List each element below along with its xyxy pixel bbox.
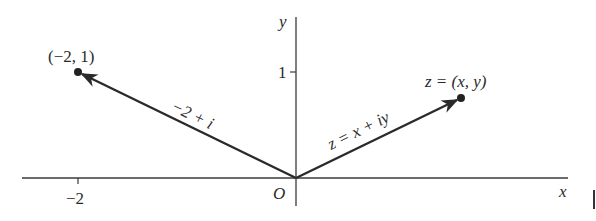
y-axis-label: y <box>277 12 287 31</box>
origin-label: O <box>273 184 285 203</box>
point-minus-2-1 <box>74 68 82 76</box>
complex-plane-diagram: y x O −2 1 (−2, 1) z = (x, y) −2 + i z =… <box>0 0 596 221</box>
point-label-z: z = (x, y) <box>424 72 487 91</box>
y-tick-label-1: 1 <box>278 63 287 82</box>
x-tick-label-minus-2: −2 <box>66 189 84 208</box>
edge-bar <box>593 190 595 209</box>
point-z <box>457 94 465 102</box>
point-label-minus-2-1: (−2, 1) <box>48 47 94 66</box>
x-axis-label: x <box>558 182 567 201</box>
vector-minus-2-plus-i <box>82 74 296 178</box>
